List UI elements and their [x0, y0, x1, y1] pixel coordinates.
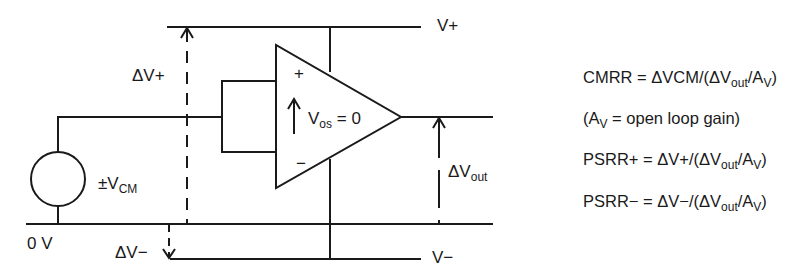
v-minus-label: V− [432, 249, 453, 266]
equation-psrr-plus: PSRR+ = ΔV+/(ΔVout/AV) [583, 151, 767, 168]
equation-av: (AV = open loop gain) [583, 110, 740, 127]
vcm-label: ±VCM [98, 175, 137, 192]
circuit-schematic [0, 0, 807, 277]
equation-cmrr: CMRR = ΔVCM/(ΔVout/AV) [583, 69, 777, 86]
delta-v-minus-label: ΔV− [115, 244, 148, 261]
source-wire [58, 117, 222, 152]
vcm-sub: CM [119, 182, 138, 196]
minus-input-label: − [296, 155, 306, 172]
vcm-prefix: ±V [98, 174, 119, 193]
voltage-source-icon [31, 152, 85, 206]
equation-psrr-minus: PSRR− = ΔV−/(ΔVout/AV) [583, 193, 767, 210]
delta-vout-label: ΔVout [448, 163, 487, 180]
v-plus-label: V+ [437, 17, 458, 34]
vos-label: Vos = 0 [308, 110, 361, 127]
plus-input-label: + [294, 65, 304, 82]
shorted-inputs-wire [222, 81, 276, 152]
delta-v-plus-label: ΔV+ [132, 67, 165, 84]
zero-volt-label: 0 V [27, 235, 53, 252]
